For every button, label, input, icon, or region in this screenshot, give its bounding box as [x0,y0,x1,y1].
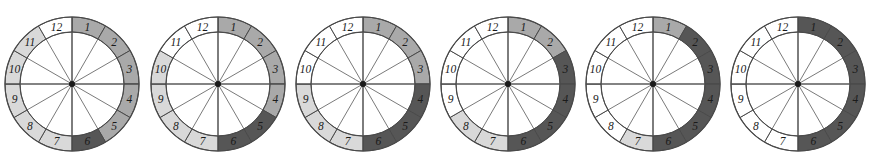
spoke-2 [72,39,98,84]
spoke-5 [72,84,117,110]
segment-label-1: 1 [811,21,817,33]
spoke-3 [72,58,117,84]
segment-label-8: 8 [463,120,469,132]
center-hub [505,81,511,87]
segment-label-12: 12 [632,21,644,33]
spoke-12 [192,39,218,84]
spoke-11 [173,58,218,84]
segment-label-12: 12 [197,21,209,33]
spoke-9 [463,84,508,110]
clock-4: 123456789101112 [435,0,581,168]
spoke-3 [653,58,698,84]
clock-body: 123456789101112 [151,17,285,151]
segment-label-6: 6 [521,135,527,147]
spoke-8 [482,84,508,129]
segment-label-6: 6 [231,135,237,147]
clock-2-canvas: 123456789101112 [145,0,291,168]
center-hub [69,81,75,87]
segment-label-12: 12 [51,21,63,33]
segment-label-4: 4 [418,93,424,105]
clock-3-canvas: 123456789101112 [290,0,436,168]
clock-1-canvas: 123456789101112 [0,0,145,168]
spoke-5 [218,84,263,110]
spoke-12 [482,39,508,84]
clock-3: 123456789101112 [290,0,436,168]
spoke-8 [46,84,72,129]
segment-label-4: 4 [563,93,569,105]
segment-label-3: 3 [126,63,133,75]
clock-body: 123456789101112 [5,17,139,151]
segment-label-11: 11 [171,36,182,48]
segment-label-2: 2 [402,36,408,48]
clock-body: 123456789101112 [586,17,720,151]
segment-label-6: 6 [85,135,91,147]
spoke-12 [627,39,653,84]
center-hub [650,81,656,87]
spoke-3 [508,58,553,84]
clock-body: 123456789101112 [441,17,575,151]
spoke-6 [653,84,679,129]
segment-label-9: 9 [738,93,744,105]
spoke-6 [363,84,389,129]
clock-diagram-series: 1234567891011121234567891011121234567891… [0,0,876,168]
clock-6-canvas: 123456789101112 [725,0,871,168]
spoke-3 [798,58,843,84]
spoke-12 [772,39,798,84]
spoke-9 [173,84,218,110]
spoke-11 [463,58,508,84]
spoke-9 [318,84,363,110]
segment-label-10: 10 [445,63,457,75]
segment-label-9: 9 [303,93,309,105]
center-hub [795,81,801,87]
segment-label-9: 9 [158,93,164,105]
spoke-5 [798,84,843,110]
segment-label-8: 8 [27,120,33,132]
segment-label-10: 10 [155,63,167,75]
segment-label-5: 5 [547,120,553,132]
spoke-11 [318,58,363,84]
spoke-2 [218,39,244,84]
segment-label-12: 12 [777,21,789,33]
clock-body: 123456789101112 [296,17,430,151]
clock-5-canvas: 123456789101112 [580,0,726,168]
spoke-8 [772,84,798,129]
segment-label-1: 1 [521,21,527,33]
segment-label-6: 6 [666,135,672,147]
segment-label-2: 2 [547,36,553,48]
spoke-9 [27,84,72,110]
segment-label-11: 11 [25,36,36,48]
segment-label-5: 5 [402,120,408,132]
spoke-6 [508,84,534,129]
spoke-2 [653,39,679,84]
segment-label-11: 11 [606,36,617,48]
clock-body: 123456789101112 [731,17,865,151]
spoke-5 [653,84,698,110]
clock-6: 123456789101112 [725,0,871,168]
spoke-6 [218,84,244,129]
segment-label-3: 3 [272,63,279,75]
spoke-2 [363,39,389,84]
segment-label-2: 2 [257,36,263,48]
segment-label-1: 1 [376,21,382,33]
spoke-11 [608,58,653,84]
segment-label-1: 1 [666,21,672,33]
spoke-6 [72,84,98,129]
segment-label-3: 3 [562,63,569,75]
segment-label-4: 4 [708,93,714,105]
segment-label-8: 8 [753,120,759,132]
segment-label-5: 5 [692,120,698,132]
spoke-11 [753,58,798,84]
spoke-8 [192,84,218,129]
spoke-9 [608,84,653,110]
segment-label-5: 5 [837,120,843,132]
segment-label-9: 9 [12,93,18,105]
segment-label-2: 2 [111,36,117,48]
spoke-3 [363,58,408,84]
spoke-6 [798,84,824,129]
clock-4-canvas: 123456789101112 [435,0,581,168]
segment-label-4: 4 [273,93,279,105]
spoke-9 [753,84,798,110]
segment-label-3: 3 [417,63,424,75]
segment-label-9: 9 [448,93,454,105]
segment-label-11: 11 [751,36,762,48]
